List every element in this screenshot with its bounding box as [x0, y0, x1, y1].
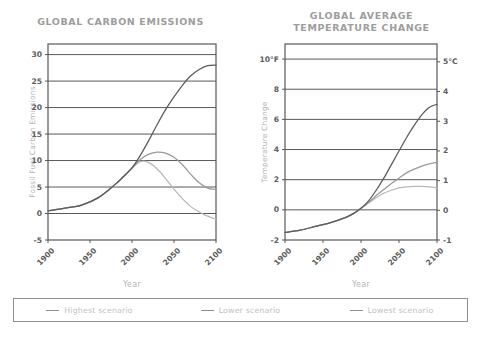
- y-tick-label-secondary: 4: [443, 87, 473, 96]
- y-tick-label: 25: [8, 77, 42, 86]
- y-tick-label: -2: [245, 236, 279, 245]
- y-tick-label: 30: [8, 50, 42, 59]
- y-tick-label: 2: [245, 175, 279, 184]
- y-tick-label: 10: [8, 156, 42, 165]
- legend-item[interactable]: Lowest scenario: [316, 306, 467, 315]
- y-tick-label: 10°F: [245, 55, 279, 64]
- y-tick-label-secondary: 5°C: [443, 57, 473, 66]
- y-tick-label-secondary: -1: [443, 236, 473, 245]
- legend-item-label: Lower scenario: [219, 306, 281, 315]
- figure-root: GLOBAL CARBON EMISSIONS Fossil Fuel Carb…: [0, 0, 483, 339]
- y-tick-label: 20: [8, 103, 42, 112]
- legend: Highest scenarioLower scenarioLowest sce…: [13, 298, 468, 322]
- y-tick-label: 0: [8, 209, 42, 218]
- y-tick-label: 5: [8, 183, 42, 192]
- y-tick-label: 0: [245, 205, 279, 214]
- y-tick-label-secondary: 3: [443, 117, 473, 126]
- chart-panel-temperature-change: GLOBAL AVERAGE TEMPERATURE CHANGE Temper…: [241, 0, 482, 290]
- charts-container: GLOBAL CARBON EMISSIONS Fossil Fuel Carb…: [0, 0, 483, 290]
- plot-area-carbon-emissions: [0, 0, 241, 290]
- chart-panel-carbon-emissions: GLOBAL CARBON EMISSIONS Fossil Fuel Carb…: [0, 0, 241, 290]
- legend-item-label: Lowest scenario: [368, 306, 434, 315]
- y-tick-label-secondary: 1: [443, 176, 473, 185]
- y-tick-label: 8: [245, 85, 279, 94]
- legend-line-marker-icon: [46, 310, 59, 311]
- legend-item[interactable]: Highest scenario: [14, 306, 165, 315]
- y-tick-label: 4: [245, 145, 279, 154]
- legend-line-marker-icon: [201, 310, 214, 311]
- legend-item-label: Highest scenario: [64, 306, 133, 315]
- y-tick-label: -5: [8, 236, 42, 245]
- y-tick-label-secondary: 2: [443, 146, 473, 155]
- y-tick-label: 6: [245, 115, 279, 124]
- legend-row: Highest scenarioLower scenarioLowest sce…: [14, 299, 467, 321]
- legend-item[interactable]: Lower scenario: [165, 306, 316, 315]
- y-tick-label: 15: [8, 130, 42, 139]
- legend-line-marker-icon: [350, 310, 363, 311]
- y-tick-label-secondary: 0: [443, 206, 473, 215]
